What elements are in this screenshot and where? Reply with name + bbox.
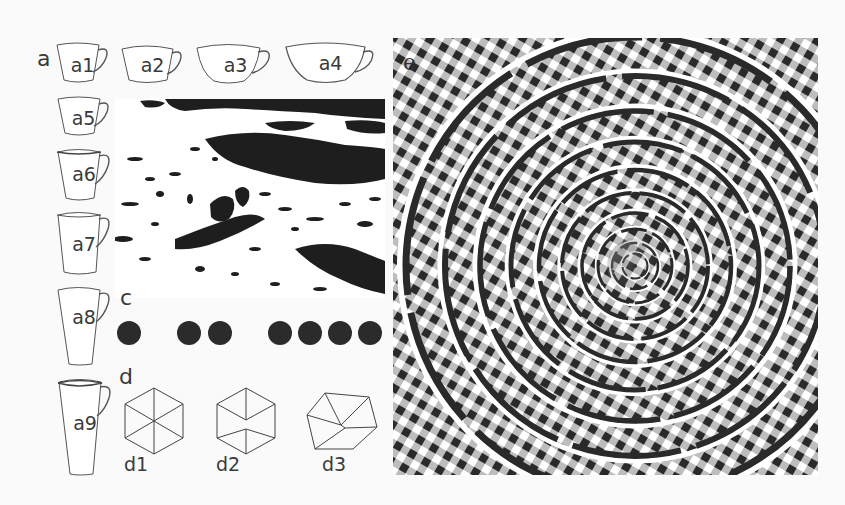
shape-d2 bbox=[215, 386, 277, 456]
dot-group-4-dot bbox=[268, 321, 292, 345]
high-contrast-photo-image bbox=[115, 99, 385, 298]
cup-a8: a8 bbox=[56, 286, 112, 366]
panel-a-label: a bbox=[37, 48, 50, 70]
dot-group-4-dot bbox=[298, 321, 322, 345]
cup-label: a4 bbox=[285, 54, 376, 73]
cup-a3: a3 bbox=[196, 43, 275, 84]
cup-label: a6 bbox=[56, 165, 112, 184]
spiral-pattern-image bbox=[393, 38, 818, 475]
dot-group-2-dot bbox=[208, 321, 232, 345]
dot-group-4-dot bbox=[328, 321, 352, 345]
shape-d2-label: d2 bbox=[216, 455, 240, 474]
shape-d1 bbox=[123, 386, 185, 456]
cup-label: a1 bbox=[55, 56, 110, 75]
cup-a4: a4 bbox=[285, 42, 376, 84]
cup-a9: a9 bbox=[57, 378, 113, 476]
cup-label: a2 bbox=[121, 56, 184, 75]
dalmatian-photo bbox=[115, 99, 385, 298]
cup-label: a7 bbox=[56, 235, 112, 254]
shape-d1-label: d1 bbox=[124, 455, 148, 474]
cup-a1: a1 bbox=[55, 42, 110, 84]
dot-group-1-dot bbox=[117, 321, 141, 345]
fraser-spiral-illusion: e bbox=[393, 38, 818, 475]
shape-d3 bbox=[305, 391, 379, 453]
cup-a5: a5 bbox=[56, 96, 111, 136]
figure: a a1 a2 a3 a4 a5 a6 a7 a8 a9 b bbox=[0, 0, 845, 505]
panel-c-label: c bbox=[120, 287, 132, 309]
panel-e-label: e bbox=[403, 50, 416, 75]
shape-d3-label: d3 bbox=[322, 455, 346, 474]
cup-label: a9 bbox=[57, 414, 113, 433]
cup-a6: a6 bbox=[56, 148, 112, 201]
cup-a7: a7 bbox=[56, 211, 112, 275]
dot-group-4-dot bbox=[358, 321, 382, 345]
cube-icon bbox=[215, 386, 277, 456]
cup-a2: a2 bbox=[121, 44, 184, 84]
cup-label: a3 bbox=[196, 56, 275, 75]
rotated-cube-icon bbox=[305, 391, 379, 453]
cup-label: a8 bbox=[56, 308, 112, 327]
panel-d-label: d bbox=[119, 366, 133, 388]
dot-group-2-dot bbox=[177, 321, 201, 345]
hexagon-icon bbox=[123, 386, 185, 456]
cup-label: a5 bbox=[56, 109, 111, 128]
